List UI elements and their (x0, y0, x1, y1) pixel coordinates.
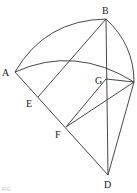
segment-CD (108, 82, 134, 175)
geometry-diagram: B A G E F D FIG. (0, 0, 137, 193)
label-E: E (26, 98, 32, 109)
label-A: A (2, 67, 10, 78)
segment-AD (15, 72, 108, 175)
label-B: B (102, 5, 109, 16)
figure-caption: FIG. (2, 186, 12, 192)
segment-BD (106, 19, 108, 175)
label-D: D (104, 179, 111, 190)
segment-FC (66, 82, 134, 127)
label-G: G (95, 75, 102, 86)
arc-BC (106, 19, 134, 82)
segment-FG (66, 79, 106, 127)
arc-AC (15, 61, 134, 82)
label-F: F (55, 129, 61, 140)
